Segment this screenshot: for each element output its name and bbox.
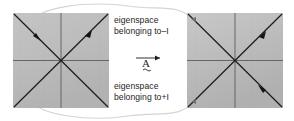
eigenspace-label-plus-one-line2: belonging to+I [114,92,169,103]
eigenspace-label-minus-one-line2: belonging to–I [114,26,169,37]
operator-symbol: A [142,58,150,69]
operator-label-wrap: A [133,52,165,74]
eigenspace-label-minus-one: eigenspace belonging to–I [114,15,169,36]
eigenspace-diagram-figure: A eigenspace belonging to–I eigenspace b… [0,0,294,121]
eigenspace-label-plus-one: eigenspace belonging to+I [114,81,169,102]
eigenspace-label-minus-one-line1: eigenspace [114,15,169,26]
eigenspace-label-plus-one-line1: eigenspace [114,81,169,92]
right-panel [187,13,283,108]
left-panel [13,13,109,108]
